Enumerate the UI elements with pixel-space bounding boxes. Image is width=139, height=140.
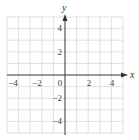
x-tick-label: 2 <box>87 78 92 88</box>
x-axis-arrow-icon <box>121 73 128 78</box>
y-tick-label: −4 <box>52 116 62 126</box>
coordinate-plane: x y −4 −2 0 2 4 4 2 −2 −4 <box>0 0 139 140</box>
x-tick-label: −2 <box>32 78 42 88</box>
x-tick-label: −4 <box>8 78 18 88</box>
x-axis <box>7 73 128 78</box>
y-axis-arrow-icon <box>63 14 68 21</box>
x-tick-label: 4 <box>110 78 115 88</box>
x-axis-label: x <box>129 69 135 80</box>
y-axis-label: y <box>61 2 67 13</box>
origin-label: 0 <box>58 78 63 88</box>
y-tick-label: 4 <box>58 23 63 33</box>
y-tick-label: −2 <box>52 93 62 103</box>
y-tick-label: 2 <box>58 47 63 57</box>
